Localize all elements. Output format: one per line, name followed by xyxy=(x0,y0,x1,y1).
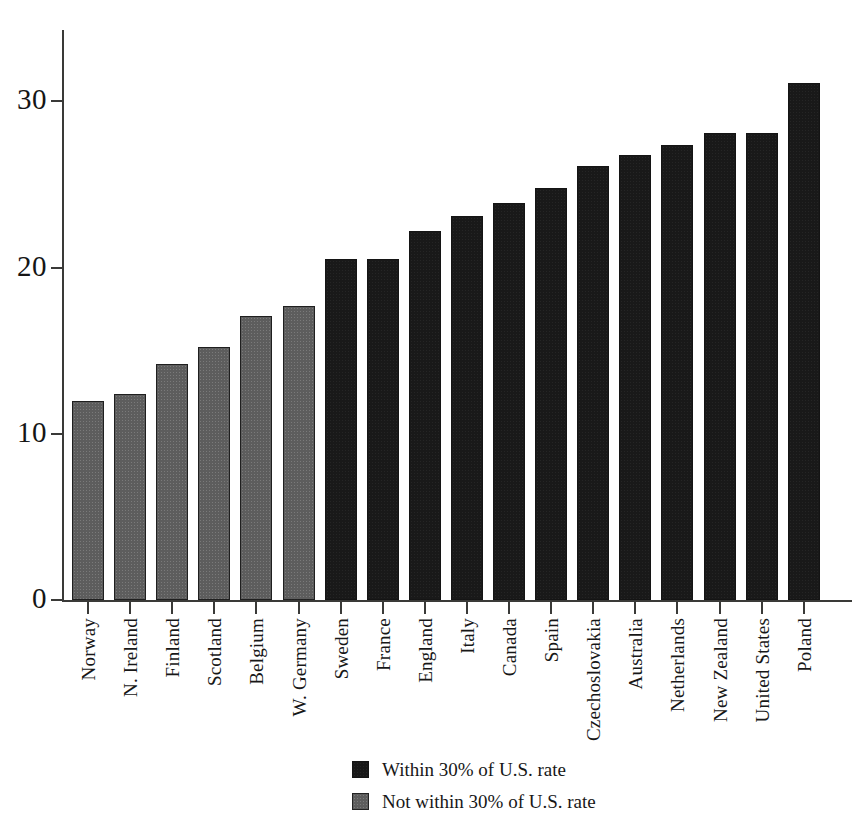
x-axis-label-czechoslovakia: Czechoslovakia xyxy=(584,618,603,741)
bar-w-germany xyxy=(283,306,315,600)
bar-france xyxy=(367,259,399,600)
bar-finland xyxy=(156,364,188,600)
x-axis-label-canada: Canada xyxy=(500,618,519,676)
x-tick xyxy=(676,602,678,614)
x-tick xyxy=(466,602,468,614)
y-axis-line xyxy=(62,30,64,600)
x-axis-label-w-germany: W. Germany xyxy=(289,618,308,716)
x-tick xyxy=(761,602,763,614)
x-tick xyxy=(129,602,131,614)
bar-sweden xyxy=(325,259,357,600)
x-axis-label-united-states: United States xyxy=(752,618,771,722)
x-axis-label-italy: Italy xyxy=(457,618,476,654)
x-tick xyxy=(803,602,805,614)
bar-poland xyxy=(788,83,820,600)
legend-item-within: Within 30% of U.S. rate xyxy=(352,756,772,782)
bar-belgium xyxy=(240,316,272,600)
legend-swatch-icon xyxy=(352,761,369,778)
x-tick xyxy=(550,602,552,614)
legend-swatch-icon xyxy=(352,793,369,810)
y-tick-label: 10 xyxy=(17,418,47,447)
x-axis-label-australia: Australia xyxy=(626,618,645,689)
y-tick-label: 20 xyxy=(17,252,47,281)
legend-item-not-within: Not within 30% of U.S. rate xyxy=(352,788,772,814)
x-tick xyxy=(213,602,215,614)
bar-united-states xyxy=(746,133,778,600)
x-tick xyxy=(424,602,426,614)
x-tick xyxy=(508,602,510,614)
bar-netherlands xyxy=(661,145,693,600)
bar-spain xyxy=(535,188,567,600)
y-tick-10: 10 xyxy=(51,433,62,435)
x-tick xyxy=(592,602,594,614)
x-axis-line xyxy=(62,600,852,602)
bar-canada xyxy=(493,203,525,600)
x-tick xyxy=(719,602,721,614)
x-tick xyxy=(255,602,257,614)
bar-italy xyxy=(451,216,483,600)
y-tick-label: 0 xyxy=(32,584,47,613)
x-tick xyxy=(87,602,89,614)
x-axis-label-spain: Spain xyxy=(542,618,561,662)
x-axis-label-n-ireland: N. Ireland xyxy=(121,618,140,697)
x-tick xyxy=(340,602,342,614)
x-axis-label-sweden: Sweden xyxy=(331,618,350,679)
bar-n-ireland xyxy=(114,394,146,600)
bar-new-zealand xyxy=(704,133,736,600)
x-tick xyxy=(382,602,384,614)
bar-czechoslovakia xyxy=(577,166,609,600)
x-axis-label-england: England xyxy=(415,618,434,683)
bar-norway xyxy=(72,401,104,600)
x-tick xyxy=(634,602,636,614)
bar-australia xyxy=(619,155,651,600)
legend-label: Within 30% of U.S. rate xyxy=(382,760,566,779)
x-axis-label-new-zealand: New Zealand xyxy=(710,618,729,722)
bar-chart-figure: 0102030 NorwayN. IrelandFinlandScotlandB… xyxy=(0,0,861,819)
plot-area: 0102030 NorwayN. IrelandFinlandScotlandB… xyxy=(62,30,852,600)
x-axis-label-norway: Norway xyxy=(79,618,98,680)
bar-scotland xyxy=(198,347,230,600)
y-tick-0: 0 xyxy=(51,599,62,601)
x-axis-label-finland: Finland xyxy=(163,618,182,677)
legend-label: Not within 30% of U.S. rate xyxy=(382,792,596,811)
y-tick-label: 30 xyxy=(17,85,47,114)
x-axis-label-poland: Poland xyxy=(794,618,813,672)
x-axis-label-belgium: Belgium xyxy=(247,618,266,685)
x-tick xyxy=(171,602,173,614)
x-axis-label-scotland: Scotland xyxy=(205,618,224,686)
y-tick-30: 30 xyxy=(51,100,62,102)
x-axis-label-netherlands: Netherlands xyxy=(668,618,687,712)
chart-legend: Within 30% of U.S. rateNot within 30% of… xyxy=(352,756,772,819)
x-tick xyxy=(298,602,300,614)
y-tick-20: 20 xyxy=(51,267,62,269)
x-axis-label-france: France xyxy=(373,618,392,671)
bar-england xyxy=(409,231,441,600)
